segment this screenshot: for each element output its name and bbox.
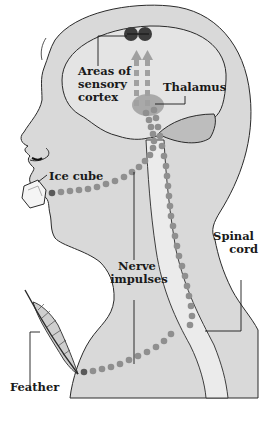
label-spinal-cord: Spinal cord [213, 229, 258, 256]
label-feather: Feather [10, 380, 60, 394]
nervous-system-diagram: Areas of sensory cortex Thalamus Ice cub… [0, 0, 271, 425]
brow-line [41, 38, 46, 60]
label-ice-cube: Ice cube [49, 169, 103, 183]
label-thalamus: Thalamus [163, 80, 226, 94]
label-nerve-impulses: Nerve impulses [110, 259, 168, 286]
